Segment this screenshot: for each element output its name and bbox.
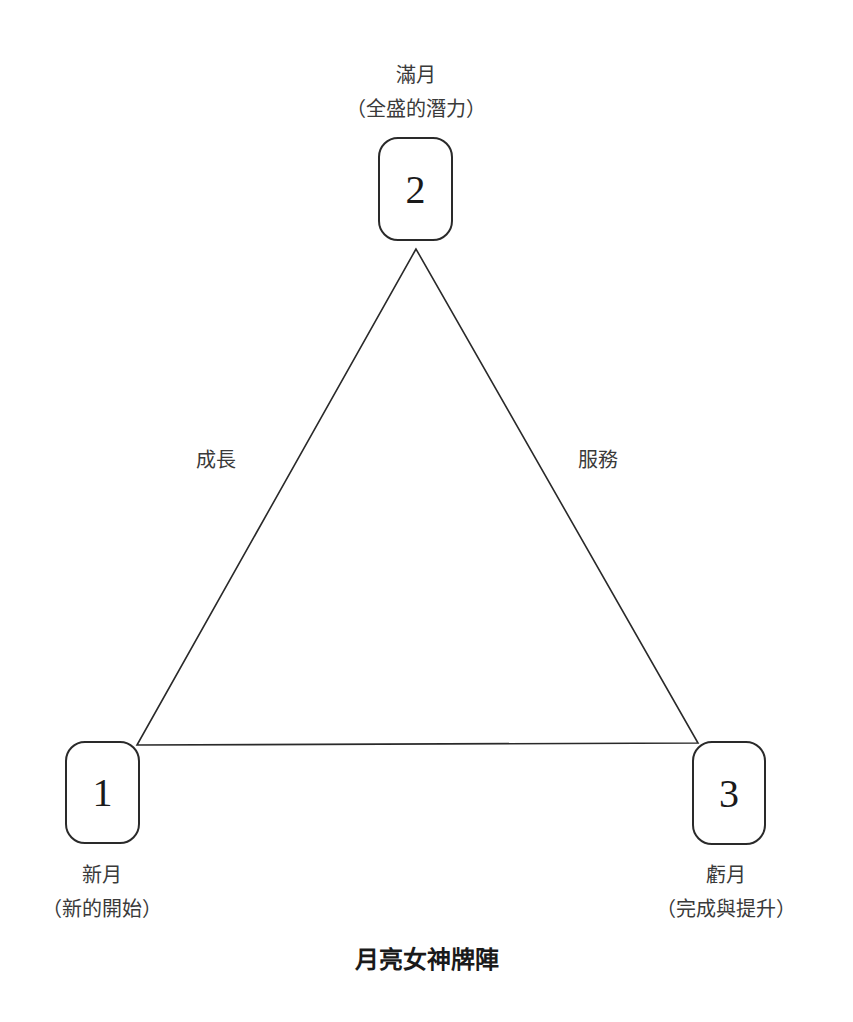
edge-label-right: 服務 bbox=[578, 444, 618, 473]
position-3-label: 虧月 （完成與提升） bbox=[626, 858, 826, 926]
position-1-label: 新月 （新的開始） bbox=[2, 858, 202, 926]
position-3-number: 3 bbox=[719, 770, 739, 817]
position-1-number: 1 bbox=[93, 769, 113, 816]
position-1-name: 新月 bbox=[2, 858, 202, 892]
position-2-meaning: （全盛的潛力） bbox=[316, 92, 516, 126]
position-2-card: 2 bbox=[378, 137, 453, 241]
position-2-name: 滿月 bbox=[316, 58, 516, 92]
position-3-card: 3 bbox=[692, 741, 766, 845]
triangle bbox=[137, 249, 698, 745]
diagram-title: 月亮女神牌陣 bbox=[0, 940, 853, 975]
position-2-label: 滿月 （全盛的潛力） bbox=[316, 58, 516, 126]
position-2-number: 2 bbox=[406, 166, 426, 213]
position-1-card: 1 bbox=[65, 741, 140, 844]
edge-label-left: 成長 bbox=[196, 444, 236, 473]
position-3-meaning: （完成與提升） bbox=[626, 892, 826, 926]
position-1-meaning: （新的開始） bbox=[2, 892, 202, 926]
position-3-name: 虧月 bbox=[626, 858, 826, 892]
